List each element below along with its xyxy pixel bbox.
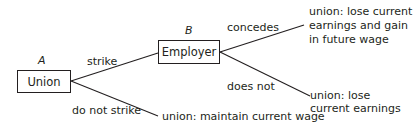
- outcome-no-strike: union: maintain current wage: [162, 110, 325, 123]
- edge-label-concedes: concedes: [227, 21, 279, 34]
- player-a-label: A: [38, 54, 46, 67]
- employer-node: Employer: [158, 40, 220, 64]
- outcome-concedes-line3: in future wage: [309, 33, 389, 46]
- employer-node-label: Employer: [162, 45, 217, 59]
- edge-label-does-not: does not: [227, 80, 275, 93]
- player-b-label: B: [185, 24, 193, 37]
- union-node: Union: [17, 70, 71, 93]
- union-node-label: Union: [27, 75, 60, 89]
- outcome-concedes-line2: earnings and gain: [309, 19, 408, 32]
- outcome-concedes-line1: union: lose current: [309, 5, 412, 18]
- edge-label-do-not-strike: do not strike: [72, 104, 141, 117]
- edge-label-strike: strike: [87, 55, 117, 68]
- outcome-does-not-line1: union: lose: [310, 89, 370, 102]
